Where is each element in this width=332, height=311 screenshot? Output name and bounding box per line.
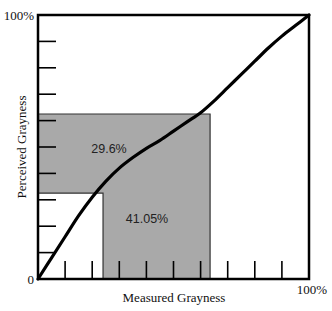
measured-span-label: 41.05% [126,212,168,226]
y-axis-title: Perceived Grayness [14,96,29,199]
grayness-chart: 100% 0 100% Measured Grayness Perceived … [0,0,332,311]
origin-label: 0 [28,272,35,287]
x-axis-max-label: 100% [297,282,328,297]
perceived-span-label: 29.6% [91,142,126,156]
shaded-regions [38,114,210,279]
x-axis-title: Measured Grayness [123,290,226,305]
chart-container: 100% 0 100% Measured Grayness Perceived … [0,0,332,311]
shaded-region [103,114,210,279]
y-axis-max-label: 100% [4,8,35,23]
